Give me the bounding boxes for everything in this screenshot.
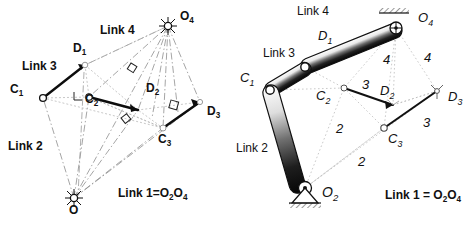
left-label-c1: C1 (10, 83, 23, 99)
left-label-link-1: Link 1=O2O4 (118, 187, 187, 203)
left-label-d3: D3 (207, 105, 220, 121)
left-label-c2: C2 (85, 93, 98, 109)
right-panel-mechanism (261, 8, 443, 208)
link-4-rod (298, 21, 404, 75)
right-label-num-3b: 3 (423, 116, 430, 129)
left-label-o4: O4 (180, 10, 194, 26)
left-label-c3: C3 (158, 133, 171, 149)
right-label-num-3a: 3 (362, 78, 369, 91)
left-label-link-3: Link 3 (22, 60, 57, 72)
right-label-link-1: Link 1 = O2O4 (385, 189, 461, 205)
right-label-num-2a: 2 (336, 122, 343, 135)
left-label-d1: D1 (73, 42, 86, 58)
pole-o4-marker (159, 17, 177, 35)
bisector-c2 (78, 72, 84, 196)
chord-construction (43, 26, 200, 128)
right-label-d3: D3 (448, 90, 462, 106)
right-label-o4: O4 (418, 11, 433, 27)
right-label-c2: C2 (316, 89, 330, 105)
right-label-o2: O2 (322, 185, 338, 202)
right-label-link-3: Link 3 (263, 47, 295, 59)
right-label-d2: D2 (380, 84, 394, 100)
left-panel-construction (40, 17, 203, 207)
left-label-o2: O (69, 204, 78, 216)
left-label-link-2: Link 2 (8, 140, 43, 152)
left-label-d2: D2 (146, 82, 159, 98)
right-label-c3: C3 (388, 132, 402, 148)
link-2-rod (261, 83, 307, 195)
right-label-link-4: Link 4 (297, 5, 329, 17)
right-label-d1: D1 (318, 29, 332, 45)
left-label-link-4: Link 4 (100, 24, 135, 36)
right-label-c1: C1 (240, 71, 254, 87)
joint-markers (40, 62, 203, 131)
pole-rays-o2 (43, 26, 200, 198)
right-label-link-2: Link 2 (236, 142, 268, 154)
right-label-num-2b: 2 (358, 155, 365, 168)
right-label-num-4b: 4 (424, 51, 431, 64)
right-label-num-4a: 4 (383, 53, 390, 66)
